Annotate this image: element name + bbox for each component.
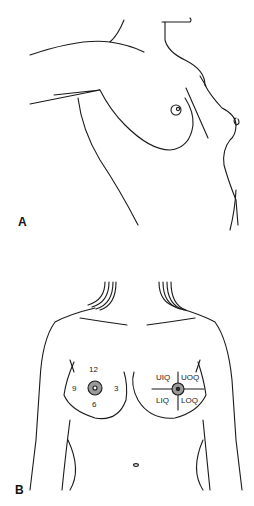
quadrant-uoq-label: UOQ xyxy=(181,373,199,382)
clock-12-label: 12 xyxy=(89,365,98,374)
clock-3-label: 3 xyxy=(114,384,118,393)
areola-left xyxy=(88,381,102,395)
quadrant-uiq-label: UIQ xyxy=(156,373,170,382)
quadrant-loq-label: LOQ xyxy=(181,396,198,405)
quadrant-liq-label: LIQ xyxy=(156,396,169,405)
breast-diagram xyxy=(0,0,254,506)
clock-9-label: 9 xyxy=(72,384,76,393)
panel-label-a: A xyxy=(18,215,27,229)
panel-b-drawing xyxy=(30,282,242,490)
areola-right xyxy=(172,383,184,395)
panel-a-drawing xyxy=(30,18,239,230)
clock-6-label: 6 xyxy=(92,400,96,409)
panel-label-b: B xyxy=(15,483,24,497)
